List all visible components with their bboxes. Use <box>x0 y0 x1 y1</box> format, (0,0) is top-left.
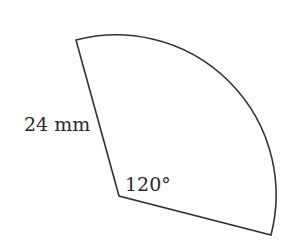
radius-label: 24 mm <box>24 113 90 135</box>
angle-label: 120° <box>125 173 171 195</box>
sector-outline <box>76 35 276 235</box>
sector-figure: 24 mm 120° <box>0 0 286 246</box>
sector-diagram: 24 mm 120° <box>0 0 286 246</box>
